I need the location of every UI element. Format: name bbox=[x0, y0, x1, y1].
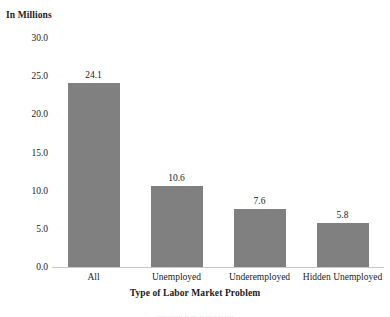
bar-group: 24.1 bbox=[68, 38, 120, 267]
y-axis-title: In Millions bbox=[6, 10, 52, 20]
bar bbox=[317, 223, 369, 267]
bar-group: 10.6 bbox=[151, 38, 203, 267]
x-axis-category-label: Unemployed bbox=[152, 271, 201, 283]
y-axis-tick-label: 10.0 bbox=[2, 186, 48, 196]
y-axis-tick-label: 0.0 bbox=[2, 262, 48, 272]
x-axis-category-label: Hidden Unemployed bbox=[303, 271, 382, 283]
bar-chart: In Millions 30.025.020.015.010.05.00.0 2… bbox=[0, 0, 390, 317]
y-axis-tick-label: 5.0 bbox=[2, 224, 48, 234]
y-axis-tick-label: 25.0 bbox=[2, 71, 48, 81]
page-bleed-text: ............ .. ... .. ... . .. .... bbox=[0, 309, 390, 317]
bar-value-label: 7.6 bbox=[220, 196, 300, 207]
bar-group: 5.8 bbox=[317, 38, 369, 267]
y-axis-tick-labels: 30.025.020.015.010.05.00.0 bbox=[0, 38, 48, 267]
x-axis-category-label: Underemployed bbox=[229, 271, 290, 283]
plot-area: 24.110.67.65.8 bbox=[52, 38, 384, 267]
bar-value-label: 10.6 bbox=[137, 173, 217, 184]
bar-value-label: 24.1 bbox=[54, 70, 134, 81]
x-axis-title: Type of Labor Market Problem bbox=[0, 288, 390, 298]
x-axis-line bbox=[52, 267, 384, 268]
y-axis-tick-label: 20.0 bbox=[2, 109, 48, 119]
y-axis-tick-label: 30.0 bbox=[2, 33, 48, 43]
bar bbox=[151, 186, 203, 267]
bar-group: 7.6 bbox=[234, 38, 286, 267]
x-axis-category-label: All bbox=[87, 271, 99, 283]
y-axis-tick-label: 15.0 bbox=[2, 148, 48, 158]
bar bbox=[68, 83, 120, 267]
bar bbox=[234, 209, 286, 267]
bar-value-label: 5.8 bbox=[303, 210, 383, 221]
